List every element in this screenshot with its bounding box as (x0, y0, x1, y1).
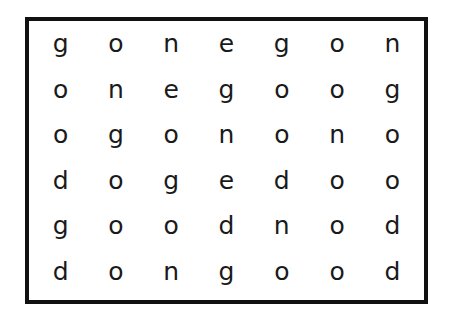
grid-cell[interactable]: d (33, 251, 88, 297)
grid-cell[interactable]: g (144, 160, 199, 206)
grid-cell[interactable]: n (254, 205, 309, 251)
grid-cell[interactable]: o (309, 251, 364, 297)
grid-cell[interactable]: e (144, 69, 199, 115)
letter-grid: g o n e g o n o n e g o o g o g o n o n … (29, 21, 424, 300)
grid-cell[interactable]: o (309, 160, 364, 206)
grid-cell[interactable]: o (144, 205, 199, 251)
grid-cell[interactable]: o (365, 160, 420, 206)
grid-cell[interactable]: d (365, 205, 420, 251)
grid-cell[interactable]: o (88, 160, 143, 206)
grid-cell[interactable]: o (309, 205, 364, 251)
grid-cell[interactable]: e (199, 160, 254, 206)
grid-cell[interactable]: g (88, 114, 143, 160)
grid-cell[interactable]: g (199, 251, 254, 297)
grid-cell[interactable]: o (88, 205, 143, 251)
letter-grid-frame: g o n e g o n o n e g o o g o g o n o n … (25, 17, 428, 304)
grid-cell[interactable]: d (254, 160, 309, 206)
grid-cell[interactable]: g (365, 69, 420, 115)
grid-cell[interactable]: o (254, 251, 309, 297)
grid-cell[interactable]: o (144, 114, 199, 160)
grid-cell[interactable]: n (365, 23, 420, 69)
grid-cell[interactable]: o (33, 114, 88, 160)
grid-cell[interactable]: g (199, 69, 254, 115)
grid-cell[interactable]: o (88, 251, 143, 297)
grid-cell[interactable]: o (254, 69, 309, 115)
grid-cell[interactable]: o (33, 69, 88, 115)
grid-cell[interactable]: g (33, 23, 88, 69)
grid-cell[interactable]: g (254, 23, 309, 69)
grid-cell[interactable]: n (199, 114, 254, 160)
grid-cell[interactable]: g (33, 205, 88, 251)
grid-cell[interactable]: n (144, 251, 199, 297)
grid-cell[interactable]: o (309, 69, 364, 115)
grid-cell[interactable]: o (309, 23, 364, 69)
grid-cell[interactable]: d (365, 251, 420, 297)
grid-cell[interactable]: n (309, 114, 364, 160)
grid-cell[interactable]: o (254, 114, 309, 160)
grid-cell[interactable]: o (365, 114, 420, 160)
grid-cell[interactable]: d (33, 160, 88, 206)
grid-cell[interactable]: n (144, 23, 199, 69)
grid-cell[interactable]: e (199, 23, 254, 69)
grid-cell[interactable]: d (199, 205, 254, 251)
grid-cell[interactable]: n (88, 69, 143, 115)
grid-cell[interactable]: o (88, 23, 143, 69)
